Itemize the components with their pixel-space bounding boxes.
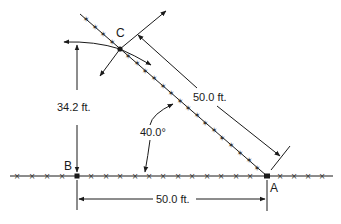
svg-text:×: × [204,172,211,181]
point-a [264,174,270,179]
svg-text:×: × [319,172,326,181]
bottom-dim-label: 50.0 ft. [156,193,190,205]
svg-text:×: × [146,172,153,181]
svg-text:✶: ✶ [185,104,192,113]
svg-text:×: × [132,172,139,181]
svg-text:×: × [277,172,284,181]
svg-text:✶: ✶ [151,74,158,83]
svg-text:×: × [29,172,36,181]
angle-label: 40.0° [140,126,166,138]
diag-dim-tick [271,146,290,170]
svg-text:×: × [233,172,240,181]
svg-text:×: × [175,172,182,181]
svg-text:×: × [88,172,95,181]
svg-text:×: × [59,172,66,181]
svg-text:✶: ✶ [177,97,184,106]
svg-text:✶: ✶ [246,156,253,165]
perpendicular-at-c [120,11,166,49]
svg-text:×: × [218,172,225,181]
offset-label: 34.2 ft. [57,101,91,113]
baseline: × × × × × × × × × × × × × × × × × × × × [10,172,333,181]
svg-text:×: × [44,172,51,181]
survey-diagram: × × × × × × × × × × × × × × × × × × × × … [0,0,341,224]
diag-dim-upper [138,35,197,88]
svg-text:×: × [291,172,298,181]
svg-text:✶: ✶ [228,141,235,150]
perpendicular-at-c-lower [100,49,120,76]
svg-text:✶: ✶ [237,149,244,158]
diagonal-marks: ✶ ✶ ✶ ✶ ✶ ✶ ✶ ✶ ✶ ✶ ✶ ✶ ✶ ✶ ✶ ✶ ✶ ✶ ✶ ✶ [83,15,261,173]
svg-text:×: × [160,172,167,181]
diag-dim-label: 50.0 ft. [193,91,227,103]
svg-text:×: × [14,172,21,181]
svg-text:✶: ✶ [168,89,175,98]
svg-text:✶: ✶ [254,164,261,173]
label-b: B [64,159,72,173]
point-c [117,46,122,51]
svg-text:✶: ✶ [219,134,226,143]
svg-text:×: × [117,172,124,181]
svg-text:✶: ✶ [92,23,99,32]
point-b [75,174,80,179]
svg-text:✶: ✶ [194,111,201,120]
svg-text:✶: ✶ [211,126,218,135]
svg-text:✶: ✶ [83,15,90,24]
svg-text:×: × [103,172,110,181]
svg-text:✶: ✶ [142,67,149,76]
svg-text:✶: ✶ [202,119,209,128]
angle-arc-lower [145,140,150,172]
label-a: A [270,181,278,195]
svg-text:×: × [247,172,254,181]
diag-dim-lower [217,106,280,156]
svg-text:✶: ✶ [160,82,167,91]
svg-text:✶: ✶ [134,59,141,68]
angle-arc-upper [150,104,173,125]
svg-text:×: × [305,172,312,181]
svg-text:✶: ✶ [100,30,107,39]
svg-text:×: × [189,172,196,181]
label-c: C [116,26,125,40]
diagonal-line: ✶ ✶ ✶ ✶ ✶ ✶ ✶ ✶ ✶ ✶ ✶ ✶ ✶ ✶ ✶ ✶ ✶ ✶ ✶ ✶ [80,14,267,176]
